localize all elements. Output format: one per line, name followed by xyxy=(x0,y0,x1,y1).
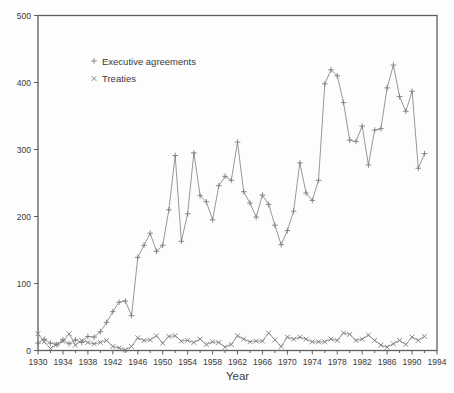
cross-marker xyxy=(397,338,402,343)
plus-marker xyxy=(316,178,322,184)
cross-marker xyxy=(403,342,408,347)
x-axis-tick-label: 1954 xyxy=(178,357,197,367)
cross-marker xyxy=(416,338,421,343)
legend: Executive agreementsTreaties xyxy=(91,56,196,85)
cross-marker xyxy=(73,343,78,348)
plus-marker xyxy=(266,202,272,208)
legend-item-treaties: Treaties xyxy=(92,73,137,84)
plus-marker xyxy=(222,174,228,180)
series-executive-agreements xyxy=(35,62,427,347)
plus-marker xyxy=(297,160,303,166)
x-axis-tick-label: 1974 xyxy=(303,357,322,367)
plot-border xyxy=(38,16,437,351)
plus-marker xyxy=(48,340,54,346)
legend-label-treaties: Treaties xyxy=(102,73,136,84)
y-axis-tick-label: 100 xyxy=(17,279,31,289)
cross-marker xyxy=(191,340,196,345)
plus-marker xyxy=(384,85,390,91)
plus-marker xyxy=(347,137,353,143)
x-axis-title: Year xyxy=(226,370,249,382)
plus-marker xyxy=(260,192,266,198)
x-axis-tick-label: 1930 xyxy=(29,357,48,367)
cross-marker xyxy=(223,345,228,350)
plus-marker xyxy=(378,126,384,132)
cross-marker xyxy=(92,76,97,81)
plus-marker xyxy=(228,178,234,184)
series-treaties xyxy=(36,331,427,353)
x-axis-tick-label: 1990 xyxy=(403,357,422,367)
x-axis-tick-label: 1958 xyxy=(203,357,222,367)
plus-marker xyxy=(397,94,403,100)
cross-marker xyxy=(378,343,383,348)
cross-marker xyxy=(67,331,72,336)
plus-marker xyxy=(185,211,191,217)
line-chart: 0100200300400500193019341938194219461950… xyxy=(0,0,454,393)
cross-marker xyxy=(229,342,234,347)
plus-marker xyxy=(191,150,197,156)
plus-marker xyxy=(116,299,122,305)
x-axis-tick-label: 1950 xyxy=(153,357,172,367)
cross-marker xyxy=(410,335,415,340)
plus-marker xyxy=(322,81,328,87)
plus-marker xyxy=(415,165,421,171)
x-axis-tick-label: 1966 xyxy=(253,357,272,367)
cross-marker xyxy=(279,344,284,349)
y-axis-tick-label: 400 xyxy=(17,78,31,88)
plus-marker xyxy=(366,162,372,168)
plus-marker xyxy=(341,100,347,106)
plus-marker xyxy=(272,222,278,228)
cross-marker xyxy=(160,341,165,346)
x-axis-tick-label: 1934 xyxy=(53,357,72,367)
y-axis-tick-label: 300 xyxy=(17,145,31,155)
cross-marker xyxy=(235,333,240,338)
plus-marker xyxy=(403,109,409,115)
plus-marker xyxy=(241,189,247,195)
plus-marker xyxy=(141,243,147,249)
cross-marker xyxy=(241,337,246,342)
plus-marker xyxy=(166,207,172,213)
plus-marker xyxy=(66,341,72,347)
plus-marker xyxy=(122,298,128,304)
figure-canvas: 0100200300400500193019341938194219461950… xyxy=(0,0,454,393)
plus-marker xyxy=(391,62,397,68)
cross-marker xyxy=(135,335,140,340)
plus-marker xyxy=(91,58,97,64)
x-axis-tick-label: 1970 xyxy=(278,357,297,367)
cross-marker xyxy=(291,337,296,342)
cross-marker xyxy=(154,333,159,338)
cross-marker xyxy=(422,334,427,339)
cross-marker xyxy=(385,345,390,350)
plus-marker xyxy=(179,238,185,244)
plus-marker xyxy=(216,183,222,189)
x-axis-tick-label: 1962 xyxy=(228,357,247,367)
x-axis-tick-label: 1946 xyxy=(128,357,147,367)
x-axis-tick-label: 1986 xyxy=(378,357,397,367)
y-axis-tick-label: 500 xyxy=(17,11,31,21)
cross-marker xyxy=(285,335,290,340)
plus-marker xyxy=(247,200,253,206)
x-axis-tick-label: 1938 xyxy=(78,357,97,367)
y-axis-tick-label: 200 xyxy=(17,212,31,222)
plus-marker xyxy=(104,320,110,326)
cross-marker xyxy=(204,342,209,347)
plus-marker xyxy=(372,127,378,133)
cross-marker xyxy=(198,337,203,342)
plus-marker xyxy=(235,139,241,145)
plus-marker xyxy=(129,313,135,319)
cross-marker xyxy=(104,338,109,343)
plus-marker xyxy=(147,230,153,236)
cross-marker xyxy=(129,344,134,349)
cross-marker xyxy=(391,341,396,346)
legend-label-executive-agreements: Executive agreements xyxy=(102,56,196,67)
cross-marker xyxy=(297,335,302,340)
plus-marker xyxy=(135,255,141,261)
plus-marker xyxy=(353,139,359,145)
plus-marker xyxy=(291,208,297,214)
cross-marker xyxy=(266,331,271,336)
plus-marker xyxy=(210,217,216,223)
cross-marker xyxy=(366,333,371,338)
plus-marker xyxy=(422,151,428,157)
plus-marker xyxy=(172,153,178,159)
plus-marker xyxy=(110,309,116,315)
legend-item-executive-agreements: Executive agreements xyxy=(91,56,196,67)
